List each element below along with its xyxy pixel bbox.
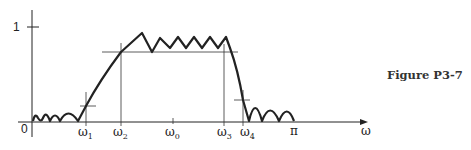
- figure-caption: Figure P3-7: [387, 68, 463, 82]
- svg-text:ω4: ω4: [240, 125, 255, 141]
- x-tick-omega1: ω1: [78, 125, 93, 141]
- x-tick-pi: π: [290, 124, 298, 138]
- x-tick-omega2: ω2: [113, 125, 128, 141]
- x-tick-omega4: ω4: [240, 125, 255, 141]
- origin-label: 0: [21, 122, 28, 136]
- x-tick-omega0: ω0: [165, 125, 180, 141]
- y-tick-label-1: 1: [13, 20, 20, 34]
- x-axis-label: ω: [361, 124, 371, 138]
- svg-text:ω2: ω2: [113, 125, 128, 141]
- response-curve: [33, 33, 294, 121]
- svg-text:ω1: ω1: [78, 125, 93, 141]
- x-tick-omega3: ω3: [217, 125, 232, 141]
- svg-text:π: π: [290, 124, 298, 138]
- svg-text:ω0: ω0: [165, 125, 180, 141]
- svg-text:ω3: ω3: [217, 125, 232, 141]
